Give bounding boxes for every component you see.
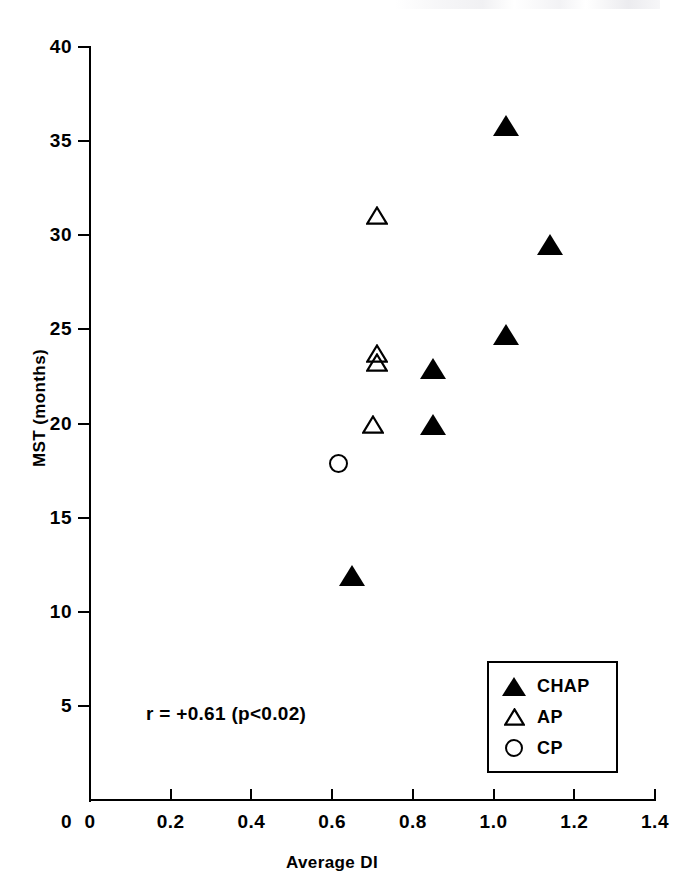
data-point-filled-triangle-icon — [420, 358, 446, 379]
legend-item: AP — [499, 704, 563, 730]
legend-item-label: CP — [537, 738, 563, 759]
data-point-open-triangle-icon — [362, 415, 384, 434]
y-tick-mark — [78, 46, 89, 48]
y-tick-mark — [78, 611, 89, 613]
x-tick-mark — [170, 789, 172, 800]
y-axis-title: MST (months) — [30, 288, 50, 528]
open-triangle-icon — [499, 708, 529, 726]
scan-artifact — [395, 0, 660, 9]
y-tick-mark — [78, 328, 89, 330]
open-circle-icon — [499, 739, 529, 757]
y-tick-label: 35 — [20, 131, 72, 150]
data-point-filled-triangle-icon — [537, 234, 563, 255]
y-tick-mark — [78, 517, 89, 519]
legend-item: CP — [499, 735, 563, 761]
x-tick-mark — [250, 789, 252, 800]
y-tick-label: 5 — [20, 696, 72, 715]
x-tick-mark — [331, 789, 333, 800]
y-tick-mark — [78, 234, 89, 236]
legend-item: CHAP — [499, 673, 590, 699]
legend-item-label: CHAP — [537, 676, 590, 697]
data-point-open-triangle-icon — [366, 206, 388, 225]
x-tick-label: 0.6 — [302, 812, 362, 831]
y-axis-line — [89, 46, 91, 802]
data-point-filled-triangle-icon — [493, 115, 519, 136]
filled-triangle-icon — [499, 677, 529, 696]
correlation-annotation: r = +0.61 (p<0.02) — [146, 703, 306, 725]
x-tick-mark — [654, 789, 656, 800]
x-tick-label: 0.4 — [221, 812, 281, 831]
y-tick-label: 10 — [20, 602, 72, 621]
data-point-filled-triangle-icon — [339, 565, 365, 586]
x-tick-label: 1.4 — [625, 812, 674, 831]
y-tick-mark — [78, 423, 89, 425]
legend-item-label: AP — [537, 707, 563, 728]
data-point-open-triangle-icon — [366, 344, 388, 363]
y-tick-label: 40 — [20, 37, 72, 56]
data-point-filled-triangle-icon — [420, 414, 446, 435]
data-point-open-circle-icon — [329, 454, 348, 473]
data-point-filled-triangle-icon — [493, 324, 519, 345]
y-tick-mark — [78, 705, 89, 707]
x-tick-label: 0.2 — [141, 812, 201, 831]
legend-box: CHAPAPCP — [487, 661, 618, 773]
x-tick-label: 1.2 — [544, 812, 604, 831]
x-tick-mark — [493, 789, 495, 800]
x-tick-mark — [573, 789, 575, 800]
y-tick-mark — [78, 140, 89, 142]
x-axis-title: Average DI — [0, 853, 664, 873]
x-tick-label: 0 — [60, 812, 120, 831]
x-tick-label: 0.8 — [383, 812, 443, 831]
x-axis-line — [89, 799, 656, 801]
x-tick-label: 1.0 — [464, 812, 524, 831]
y-tick-label: 30 — [20, 225, 72, 244]
x-tick-mark — [412, 789, 414, 800]
